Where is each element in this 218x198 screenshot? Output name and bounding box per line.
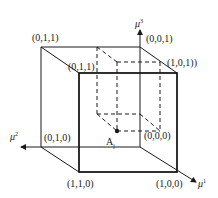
axes bbox=[21, 30, 196, 182]
label-top-origin: (0,0,1) bbox=[146, 33, 173, 45]
label-front-bottom-right: (1,0,0) bbox=[156, 178, 183, 190]
edge-bottom-left-diagonal bbox=[41, 147, 79, 172]
point-a-j bbox=[115, 129, 119, 133]
label-inner-top-left: (0,1,1) bbox=[68, 61, 95, 73]
axis-mu1-label: μ1 bbox=[197, 178, 206, 189]
axis-mu2-label: μ2 bbox=[9, 131, 18, 142]
label-back-bottom-left: (0,1,0) bbox=[44, 132, 71, 144]
inner-dashed-cube bbox=[97, 47, 160, 131]
cube-diagram: Aj μ3 μ2 μ1 (0,1,1) (0,1,1) (0,0,1) (1,0… bbox=[0, 0, 218, 198]
outer-cube-edges bbox=[41, 47, 177, 172]
label-front-top-right: (1,0,1)) bbox=[167, 57, 197, 69]
axis-mu3-label: μ3 bbox=[134, 18, 143, 29]
axis-mu1 bbox=[140, 147, 196, 182]
front-face bbox=[79, 73, 177, 172]
label-back-top-left: (0,1,1) bbox=[32, 32, 59, 44]
label-origin: (0,0,0) bbox=[144, 130, 171, 142]
label-front-bottom-left: (1,1,0) bbox=[67, 178, 94, 190]
